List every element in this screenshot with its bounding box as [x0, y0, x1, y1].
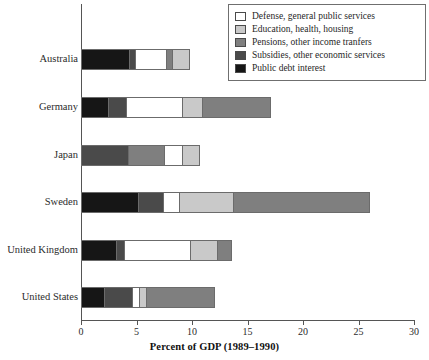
stacked-bar-chart: 051015202530 AustraliaGermanyJapanSweden…	[0, 0, 429, 360]
bar-segment	[82, 146, 128, 165]
bar-segment	[116, 241, 124, 260]
legend-item: Pensions, other income tranfers	[235, 36, 421, 48]
x-axis-tick-label: 5	[122, 326, 152, 337]
legend-item: Subsidies, other economic services	[235, 49, 421, 61]
bar-segment	[233, 193, 370, 212]
category-label-united-states: United States	[22, 291, 78, 303]
legend-swatch-icon	[235, 51, 246, 60]
x-axis-tick	[414, 321, 415, 325]
bar-segment	[128, 146, 165, 165]
bar-segment	[182, 98, 202, 117]
bar-segment	[82, 193, 138, 212]
x-axis-title: Percent of GDP (1989–1990)	[0, 341, 429, 352]
category-label-japan: Japan	[54, 149, 78, 161]
legend-item: Education, health, housing	[235, 23, 421, 35]
bar-united-states	[81, 287, 215, 308]
legend-item: Defense, general public services	[235, 10, 421, 22]
legend-label: Defense, general public services	[252, 11, 375, 21]
x-axis-tick-label: 10	[177, 326, 207, 337]
x-axis-tick	[303, 321, 304, 325]
bar-segment	[138, 193, 164, 212]
bar-segment	[182, 146, 200, 165]
legend-swatch-icon	[235, 64, 246, 73]
category-label-germany: Germany	[39, 101, 78, 113]
x-axis-tick-label: 30	[399, 326, 429, 337]
bar-segment	[132, 288, 139, 307]
legend-swatch-icon	[235, 12, 246, 21]
legend-label: Subsidies, other economic services	[252, 50, 385, 60]
category-label-sweden: Sweden	[45, 196, 78, 208]
bar-segment	[146, 288, 215, 307]
bar-segment	[82, 50, 129, 69]
bar-segment	[108, 98, 127, 117]
x-axis-tick	[248, 321, 249, 325]
bar-united-kingdom	[81, 240, 232, 261]
legend-swatch-icon	[235, 38, 246, 47]
legend-swatch-icon	[235, 25, 246, 34]
x-axis-tick-label: 15	[233, 326, 263, 337]
bar-germany	[81, 97, 271, 118]
bar-segment	[217, 241, 232, 260]
x-axis-tick	[192, 321, 193, 325]
bar-segment	[190, 241, 218, 260]
x-axis-tick	[137, 321, 138, 325]
bar-segment	[129, 50, 136, 69]
bar-japan	[81, 145, 200, 166]
legend-label: Public debt interest	[252, 63, 325, 73]
legend-label: Pensions, other income tranfers	[252, 37, 372, 47]
legend-item: Public debt interest	[235, 62, 421, 74]
bar-segment	[135, 50, 166, 69]
bar-segment	[82, 288, 104, 307]
bar-segment	[163, 193, 179, 212]
bar-segment	[126, 98, 182, 117]
bar-segment	[164, 146, 182, 165]
bar-australia	[81, 49, 190, 70]
bar-segment	[139, 288, 147, 307]
bar-segment	[179, 193, 233, 212]
x-axis-tick-label: 20	[288, 326, 318, 337]
bar-segment	[124, 241, 189, 260]
x-axis-tick	[81, 321, 82, 325]
category-label-united-kingdom: United Kingdom	[7, 244, 78, 256]
bar-segment	[82, 241, 116, 260]
x-axis-tick-label: 0	[66, 326, 96, 337]
bar-segment	[202, 98, 271, 117]
bar-segment	[172, 50, 190, 69]
bar-segment	[104, 288, 132, 307]
category-label-australia: Australia	[40, 53, 79, 65]
legend-label: Education, health, housing	[252, 24, 353, 34]
bar-segment	[82, 98, 108, 117]
chart-legend: Defense, general public servicesEducatio…	[228, 4, 426, 81]
bar-sweden	[81, 192, 370, 213]
x-axis-tick	[359, 321, 360, 325]
x-axis-tick-label: 25	[344, 326, 374, 337]
